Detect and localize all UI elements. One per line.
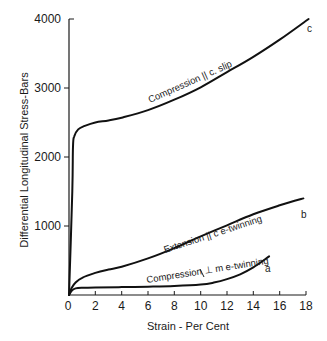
y-tick-label-1000: 1000 — [34, 219, 61, 233]
curve-c-end-letter: c — [307, 23, 312, 34]
curves — [69, 19, 309, 295]
x-tick-label-6: 6 — [145, 299, 152, 313]
curve-b-end-letter: b — [301, 209, 307, 220]
y-ticks: 4000 3000 2000 1000 — [34, 12, 74, 233]
curve-a-end-letter: a — [265, 263, 271, 274]
x-ticks: 0 2 4 6 8 10 12 14 16 18 — [65, 291, 313, 313]
axes — [69, 19, 306, 295]
x-tick-label-12: 12 — [220, 299, 234, 313]
curve-c-compression-c-slip — [69, 19, 309, 295]
y-tick-label-3000: 3000 — [34, 81, 61, 95]
x-tick-label-16: 16 — [273, 299, 287, 313]
x-tick-label-14: 14 — [247, 299, 261, 313]
x-tick-label-4: 4 — [118, 299, 125, 313]
y-tick-label-4000: 4000 — [34, 12, 61, 26]
x-tick-label-8: 8 — [171, 299, 178, 313]
x-tick-label-2: 2 — [92, 299, 99, 313]
x-tick-label-18: 18 — [299, 299, 313, 313]
curve-b-label: Extension || c e-twinning — [162, 213, 263, 255]
y-axis-title: Differential Longitudinal Stress-Bars — [18, 72, 30, 248]
x-tick-label-10: 10 — [194, 299, 208, 313]
stress-strain-chart: 4000 3000 2000 1000 0 2 4 6 8 10 12 14 1… — [0, 0, 327, 341]
curve-c-label: Compression || c. slip — [146, 58, 233, 105]
y-tick-label-2000: 2000 — [34, 150, 61, 164]
x-tick-label-0: 0 — [65, 299, 72, 313]
x-axis-title: Strain - Per Cent — [147, 320, 229, 332]
